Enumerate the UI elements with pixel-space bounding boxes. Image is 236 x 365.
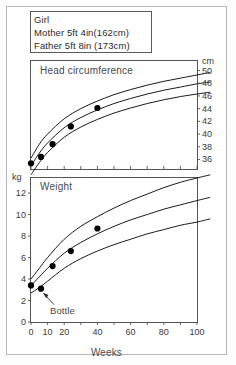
measurement-point — [49, 263, 55, 269]
hc-ytick-label: 40 — [202, 129, 212, 139]
wt-ytick-label: 2 — [6, 296, 26, 306]
hc-ytick-label: 46 — [202, 91, 212, 101]
wt-ytick-label: 8 — [6, 231, 26, 241]
centile-curve-centile-upper — [31, 175, 210, 279]
wt-xtick-label: 40 — [87, 327, 107, 337]
wt-xtick-label: 100 — [187, 327, 207, 337]
growth-chart-page: Girl Mother 5ft 4in(162cm) Father 5ft 8i… — [0, 0, 236, 365]
centile-curve-centile-middle — [31, 197, 210, 285]
hc-ytick-label: 48 — [202, 78, 212, 88]
measurement-point — [68, 248, 74, 254]
measurement-point — [94, 225, 100, 231]
wt-xtick-label: 20 — [54, 327, 74, 337]
x-axis-title: Weeks — [91, 347, 122, 358]
centile-curve-centile-lower — [31, 219, 210, 293]
weight-svg — [0, 0, 236, 365]
hc-ytick-label: 36 — [202, 154, 212, 164]
measurement-point — [38, 286, 44, 292]
hc-ytick-label: 50 — [202, 66, 212, 76]
hc-ytick-label: 44 — [202, 104, 212, 114]
wt-xtick-label: 60 — [121, 327, 141, 337]
wt-ytick-label: 10 — [6, 210, 26, 220]
wt-ytick-label: 4 — [6, 274, 26, 284]
measurement-point — [28, 282, 34, 288]
hc-ytick-label: 42 — [202, 116, 212, 126]
hc-ytick-label: 38 — [202, 142, 212, 152]
wt-xtick-label: 80 — [154, 327, 174, 337]
bottle-annotation-label: Bottle — [50, 305, 75, 316]
wt-ytick-label: 12 — [6, 188, 26, 198]
wt-ytick-label: 6 — [6, 253, 26, 263]
wt-ytick-label: 0 — [6, 317, 26, 327]
